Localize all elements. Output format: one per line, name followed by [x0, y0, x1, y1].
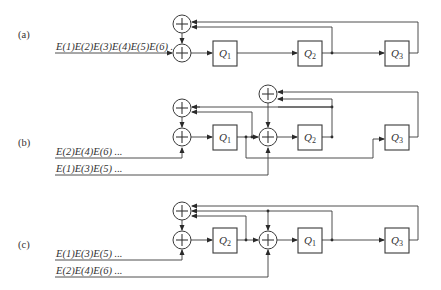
- register-q2-b: Q2: [298, 125, 322, 150]
- adder-icon: [173, 202, 191, 220]
- register-q2-c: Q2: [213, 228, 237, 253]
- input-sequence-b-odd: E(1)E(3)E(5) ...: [55, 163, 122, 175]
- input-sequence-a: E(1)E(2)E(3)E(4)E(5)E(6) ...: [55, 41, 178, 53]
- adder-icon: [173, 15, 191, 33]
- register-q3-c: Q3: [385, 228, 409, 253]
- panel-label-b: (b): [18, 137, 31, 149]
- panel-label-c: (c): [18, 239, 30, 251]
- input-sequence-b-even: E(2)E(4)E(6) ...: [55, 146, 122, 158]
- lfsr-diagram: (a) E(1)E(2)E(3)E(4)E(5)E(6) ... Q1 Q2: [0, 0, 441, 290]
- adder-icon: [173, 44, 191, 62]
- adder-icon: [259, 85, 277, 103]
- panel-b: (b) E(2)E(4)E(6) ... E(1)E(3)E(5) ... Q1: [18, 85, 418, 175]
- adder-icon: [173, 99, 191, 117]
- adder-icon: [259, 128, 277, 146]
- panel-a: (a) E(1)E(2)E(3)E(4)E(5)E(6) ... Q1 Q2: [18, 15, 418, 66]
- register-q3-b: Q3: [385, 125, 409, 150]
- register-q3-a: Q3: [385, 41, 409, 66]
- register-q1-a: Q1: [213, 41, 237, 66]
- adder-icon: [173, 128, 191, 146]
- panel-label-a: (a): [18, 29, 30, 41]
- adder-icon: [259, 231, 277, 249]
- adder-icon: [173, 231, 191, 249]
- register-q1-c: Q1: [298, 228, 322, 253]
- panel-c: (c) E(1)E(3)E(5) ... E(2)E(4)E(6) ... Q2: [18, 202, 418, 277]
- input-sequence-c-even: E(2)E(4)E(6) ...: [55, 265, 122, 277]
- register-q1-b: Q1: [213, 125, 237, 150]
- register-q2-a: Q2: [298, 41, 322, 66]
- input-sequence-c-odd: E(1)E(3)E(5) ...: [55, 248, 122, 260]
